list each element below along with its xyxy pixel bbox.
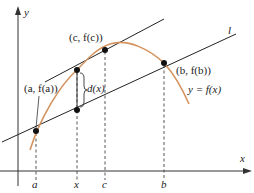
distance-label: d(x) [87, 82, 105, 95]
dashed-guides [36, 46, 164, 180]
y-axis [15, 6, 21, 186]
tick-label-c: c [102, 178, 107, 190]
point-a [33, 128, 39, 134]
point-x-line [74, 107, 80, 113]
point-b [161, 60, 167, 66]
point-label-b: (b, f(b)) [176, 64, 211, 77]
label-leader-a [36, 96, 39, 128]
secant-line-label: l [228, 24, 231, 36]
mean-value-theorem-diagram: y x a x c b (a, f(a)) (c, f(c)) (b, f(b)… [0, 0, 254, 193]
y-axis-label: y [23, 6, 29, 18]
distance-brace [80, 73, 87, 107]
point-label-a: (a, f(a)) [24, 82, 58, 95]
point-x-curve [74, 67, 80, 73]
tick-label-a: a [32, 178, 38, 190]
x-axis-label: x [239, 152, 245, 164]
point-c [102, 47, 108, 53]
x-axis [0, 168, 252, 174]
tick-label-b: b [161, 178, 167, 190]
point-label-c: (c, f(c)) [69, 31, 103, 44]
function-label: y = f(x) [187, 83, 221, 96]
tick-label-x: x [73, 178, 79, 190]
function-curve [30, 42, 189, 150]
